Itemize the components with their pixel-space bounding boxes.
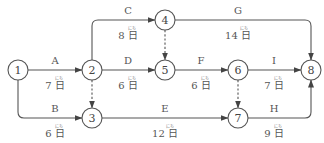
node-8-label: 8: [308, 64, 315, 77]
activity-label-I: I: [272, 55, 276, 66]
activity-label-C: C: [124, 5, 132, 16]
activity-label-A: A: [50, 55, 59, 66]
duration-I: 7 日: [264, 80, 284, 91]
node-6-label: 6: [235, 64, 242, 77]
node-7: 7: [228, 108, 248, 128]
node-2: 2: [82, 60, 102, 80]
duration-B: 6 日: [45, 128, 65, 139]
duration-H: 9 日: [264, 128, 284, 139]
node-1: 1: [8, 60, 28, 80]
duration-E: 12 日: [152, 128, 178, 139]
node-3-label: 3: [89, 112, 96, 125]
activity-network-diagram: A にち 7 日 B にち 6 日 C にち 8 日 D にち 6 日 E にち…: [0, 0, 324, 143]
duration-A: 7 日: [45, 80, 65, 91]
node-3: 3: [82, 108, 102, 128]
node-4: 4: [155, 10, 175, 30]
duration-G: 14 日: [225, 30, 251, 41]
node-4-label: 4: [162, 14, 169, 27]
duration-F: 6 日: [191, 80, 211, 91]
node-6: 6: [228, 60, 248, 80]
node-7-label: 7: [235, 112, 242, 125]
activity-label-E: E: [161, 103, 168, 114]
node-2-label: 2: [89, 64, 96, 77]
activity-label-B: B: [51, 103, 58, 114]
activity-label-F: F: [198, 55, 205, 66]
node-1-label: 1: [15, 64, 22, 77]
node-8: 8: [301, 60, 321, 80]
duration-C: 8 日: [118, 30, 138, 41]
duration-D: 6 日: [118, 80, 138, 91]
activity-label-G: G: [234, 5, 242, 16]
activity-label-H: H: [270, 103, 279, 114]
node-5-label: 5: [162, 64, 169, 77]
node-5: 5: [155, 60, 175, 80]
activity-label-D: D: [124, 55, 132, 66]
